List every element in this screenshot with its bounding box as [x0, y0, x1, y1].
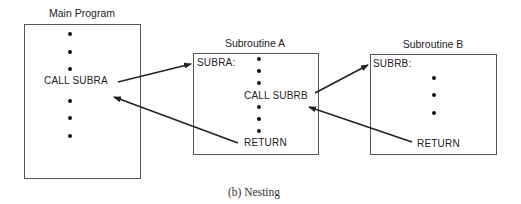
return-arrow-b-to-a — [309, 107, 412, 142]
call-arrow-main-to-a — [118, 64, 191, 82]
arrows-layer — [0, 0, 521, 204]
call-arrow-a-to-b — [315, 65, 368, 93]
return-arrow-a-to-main — [114, 97, 238, 143]
figure-caption: (b) Nesting — [228, 186, 280, 198]
